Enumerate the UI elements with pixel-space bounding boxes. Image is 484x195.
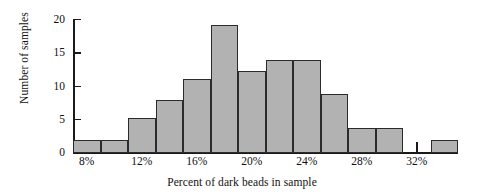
histogram-figure: Number of samples 05101520 8%12%16%20%24… — [0, 0, 484, 195]
histogram-bar — [266, 60, 294, 153]
histogram-bar — [73, 140, 101, 153]
y-tick-mark — [73, 52, 81, 53]
y-tick-label: 20 — [54, 13, 66, 25]
y-tick-mark — [73, 86, 81, 87]
x-tick-label: 16% — [186, 155, 207, 167]
histogram-bar — [128, 118, 156, 153]
histogram-bar — [431, 140, 459, 153]
x-tick-label: 12% — [131, 155, 152, 167]
x-tick-label: 32% — [406, 155, 427, 167]
plot-area: 05101520 8%12%16%20%24%28%32% — [73, 19, 458, 153]
histogram-bar — [183, 79, 211, 153]
y-tick-mark — [73, 19, 81, 20]
x-tick-label: 20% — [241, 155, 262, 167]
histogram-bar — [348, 128, 376, 153]
histogram-bar — [321, 94, 349, 153]
y-tick-label: 10 — [54, 80, 66, 92]
x-tick-label: 8% — [79, 155, 94, 167]
y-tick-label: 0 — [59, 146, 65, 158]
histogram-bar — [101, 140, 129, 153]
x-tick-label: 28% — [351, 155, 372, 167]
x-tick-mark — [416, 142, 418, 153]
histogram-bar — [376, 128, 404, 153]
histogram-bar — [211, 25, 239, 153]
histogram-bar — [156, 100, 184, 153]
x-axis-title: Percent of dark beads in sample — [0, 176, 484, 188]
y-tick-label: 15 — [54, 46, 66, 58]
y-tick-label: 5 — [59, 113, 65, 125]
histogram-bar — [238, 71, 266, 153]
histogram-bar — [293, 60, 321, 153]
y-tick-mark — [73, 119, 81, 120]
x-tick-label: 24% — [296, 155, 317, 167]
y-axis-title: Number of samples — [18, 0, 30, 128]
